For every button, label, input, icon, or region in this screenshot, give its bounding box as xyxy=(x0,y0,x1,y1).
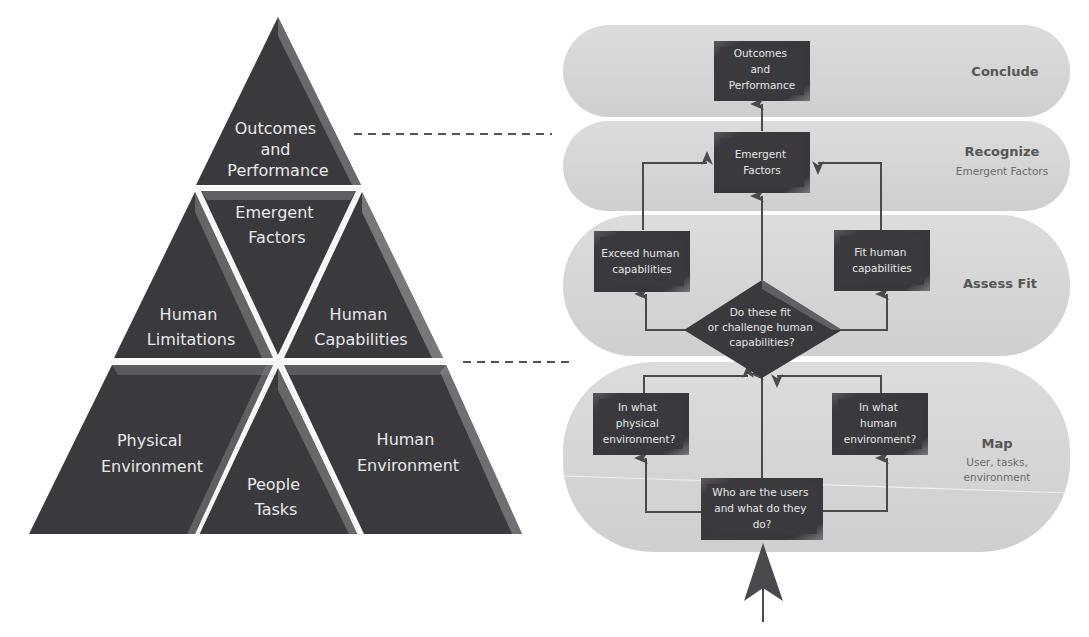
flow-box-emergent[interactable]: Emergent Factors xyxy=(714,132,810,193)
lane-recognize-subtitle: Emergent Factors xyxy=(956,165,1048,177)
lane-conclude-title: Conclude xyxy=(971,64,1038,79)
pyramid: Outcomes and Performance Emergent Factor… xyxy=(29,17,522,536)
lane-map-subtitle-2: environment xyxy=(964,471,1031,483)
lane-recognize-title: Recognize xyxy=(965,144,1040,159)
pyramid-top-outcomes xyxy=(196,17,361,185)
flow-box-users[interactable]: Who are the users and what do they do? xyxy=(701,478,823,540)
flow-box-physical[interactable]: In what physical environment? xyxy=(593,393,689,455)
flow-box-human-env[interactable]: In what human environment? xyxy=(832,393,928,455)
flow-box-outcomes[interactable]: Outcomes and Performance xyxy=(714,41,810,101)
flow-box-exceed[interactable]: Exceed human capabilities xyxy=(594,231,690,292)
diagram-canvas: Outcomes and Performance Emergent Factor… xyxy=(0,0,1089,637)
lane-map-title: Map xyxy=(981,436,1012,451)
lane-map-subtitle-1: User, tasks, xyxy=(966,456,1028,468)
lane-assess-title: Assess Fit xyxy=(963,276,1037,291)
flow-box-fit[interactable]: Fit human capabilities xyxy=(834,230,930,291)
